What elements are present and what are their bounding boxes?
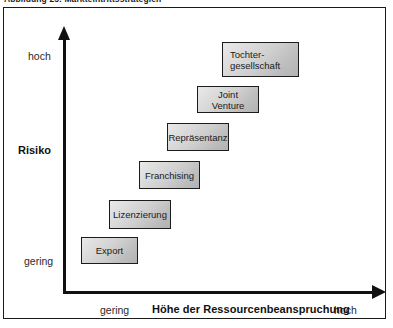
step-box-tochtergesellschaft: Tochter- gesellschaft [222, 42, 299, 77]
x-axis-low-label: gering [100, 304, 129, 316]
y-axis-line [63, 38, 66, 294]
chart-frame: hoch gering Risiko gering hoch Höhe der … [3, 7, 386, 319]
step-box-label: Export [93, 245, 126, 256]
step-box-export: Export [81, 237, 138, 264]
y-axis-high-label: hoch [28, 50, 51, 62]
step-box-label: Franchising [142, 170, 197, 181]
step-box-lizenzierung: Lizenzierung [109, 200, 171, 229]
step-box-label: Tochter- gesellschaft [223, 49, 283, 71]
figure-caption: Abbildung 25: Markteintrittsstrategien [4, 0, 384, 6]
step-box-label: Joint Venture [198, 89, 258, 111]
x-axis-title: Höhe der Ressourcenbeanspruchung [152, 303, 350, 315]
x-axis-arrow-icon [372, 285, 386, 299]
y-axis-arrow-icon [58, 26, 70, 40]
y-axis-low-label: gering [24, 255, 53, 267]
y-axis-title: Risiko [18, 144, 51, 156]
step-box-label: Lizenzierung [110, 209, 170, 220]
step-box-joint-venture: Joint Venture [197, 86, 259, 113]
step-box-label: Repräsentanz [165, 132, 230, 143]
step-box-repraesentanz: Repräsentanz [167, 123, 229, 151]
x-axis-line [63, 291, 375, 294]
step-box-franchising: Franchising [139, 161, 200, 189]
